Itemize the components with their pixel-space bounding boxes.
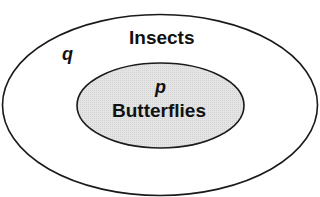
inner-set-variable: p (155, 78, 166, 96)
inner-set-label: Butterflies (112, 101, 206, 120)
outer-set-label: Insects (129, 28, 194, 47)
outer-set-variable: q (62, 45, 73, 63)
